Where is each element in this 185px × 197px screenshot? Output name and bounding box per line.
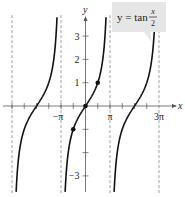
x-tick-label: 3π	[154, 111, 164, 122]
x-tick-label: −π	[53, 111, 64, 122]
x-axis-arrow-icon	[172, 104, 177, 108]
y-axis-label: y	[82, 4, 88, 15]
x-tick-label: π	[107, 111, 112, 122]
data-point	[95, 80, 100, 85]
x-axis-label: x	[177, 100, 183, 111]
y-tick-label: 1	[75, 77, 80, 88]
function-callout: y = tan x 2	[112, 2, 166, 42]
function-label-denominator: 2	[151, 19, 155, 28]
y-tick-label: 2	[75, 54, 80, 65]
y-axis-arrow-icon	[84, 16, 88, 21]
function-label-numerator: x	[150, 7, 155, 16]
tangent-branch	[114, 17, 155, 192]
tangent-branch	[16, 17, 57, 192]
data-point	[71, 127, 76, 132]
y-tick-label: −3	[69, 170, 80, 181]
y-tick-label: 3	[75, 31, 80, 42]
axes	[3, 16, 177, 192]
function-label-lhs: y = tan	[117, 11, 148, 23]
tan-half-x-graph: −ππ3π321−3 y = tan x 2 y x	[0, 0, 185, 197]
data-point	[83, 104, 88, 109]
